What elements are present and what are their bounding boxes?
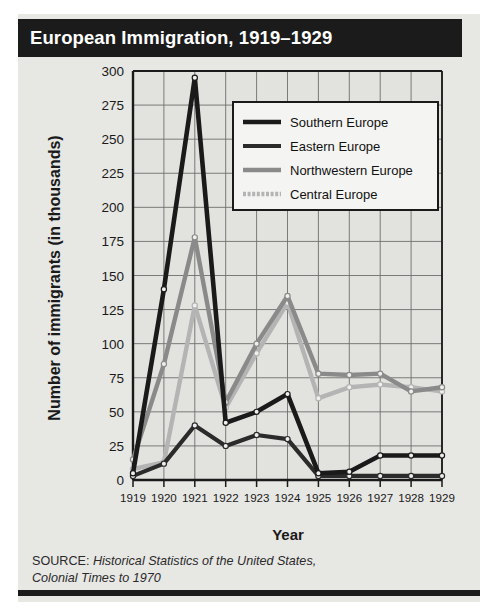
y-tick-label: 250 (101, 132, 124, 147)
legend-label: Southern Europe (290, 115, 388, 130)
figure-root: European Immigration, 1919–1929 Number o… (0, 0, 494, 614)
y-tick-label: 0 (116, 473, 124, 488)
x-tick-label: 1921 (182, 491, 208, 504)
y-tick-label: 225 (101, 166, 124, 181)
x-tick-label: 1927 (367, 491, 393, 504)
series-point (161, 287, 166, 292)
source-note: SOURCE: Historical Statistics of the Uni… (32, 553, 462, 587)
series-point (254, 432, 259, 437)
series-point (192, 423, 197, 428)
series-point (409, 389, 414, 394)
y-tick-label: 50 (109, 405, 124, 420)
bottom-rule (18, 590, 480, 596)
x-tick-label: 1922 (213, 491, 239, 504)
x-tick-label: 1919 (120, 491, 146, 504)
x-tick-label: 1924 (275, 491, 301, 504)
series-point (254, 341, 259, 346)
series-point (439, 385, 444, 390)
legend-label: Northwestern Europe (290, 163, 413, 178)
series-point (192, 303, 197, 308)
series-point (378, 371, 383, 376)
source-text-line2: Colonial Times to 1970 (32, 571, 161, 585)
x-tick-label: 1926 (336, 491, 362, 504)
y-tick-label: 75 (109, 371, 124, 386)
legend-label: Central Europe (290, 187, 377, 202)
plot-area-wrapper: 0255075100125150175200225250275300191919… (18, 14, 480, 602)
x-tick-label: 1923 (244, 491, 270, 504)
y-tick-label: 125 (101, 303, 124, 318)
y-tick-label: 25 (109, 439, 124, 454)
series-point (223, 443, 228, 448)
series-point (347, 385, 352, 390)
y-tick-label: 275 (101, 98, 124, 113)
series-point (130, 471, 135, 476)
source-label: SOURCE: (32, 554, 89, 568)
series-point (285, 392, 290, 397)
x-axis-title: Year (133, 526, 443, 543)
series-point (378, 473, 383, 478)
series-point (347, 372, 352, 377)
page-margin-top (0, 0, 494, 14)
series-point (439, 453, 444, 458)
x-tick-label: 1925 (306, 491, 332, 504)
series-point (316, 396, 321, 401)
series-point (316, 471, 321, 476)
series-point (192, 235, 197, 240)
series-point (378, 382, 383, 387)
series-point (409, 473, 414, 478)
series-point (192, 75, 197, 80)
y-tick-label: 150 (101, 269, 124, 284)
series-point (223, 420, 228, 425)
series-point (285, 293, 290, 298)
legend-label: Eastern Europe (290, 139, 380, 154)
series-point (347, 469, 352, 474)
y-tick-label: 175 (101, 234, 124, 249)
series-point (316, 371, 321, 376)
x-tick-label: 1929 (429, 491, 455, 504)
series-point (285, 437, 290, 442)
series-point (409, 453, 414, 458)
series-point (254, 409, 259, 414)
page-margin-right (480, 0, 494, 614)
page-margin-left (0, 0, 18, 614)
x-tick-label: 1928 (398, 491, 424, 504)
series-point (161, 362, 166, 367)
chart-panel: European Immigration, 1919–1929 Number o… (18, 14, 480, 602)
page-margin-bottom (0, 602, 494, 614)
line-chart: 0255075100125150175200225250275300191919… (18, 14, 480, 534)
series-point (378, 453, 383, 458)
y-tick-label: 100 (101, 337, 124, 352)
y-tick-label: 300 (101, 64, 124, 79)
series-point (161, 461, 166, 466)
series-point (439, 473, 444, 478)
source-text-line1: Historical Statistics of the United Stat… (93, 554, 316, 568)
y-tick-label: 200 (101, 200, 124, 215)
x-tick-label: 1920 (151, 491, 177, 504)
